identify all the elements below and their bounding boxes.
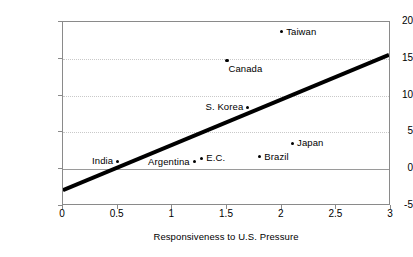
x-axis-title: Responsiveness to U.S. Pressure xyxy=(62,231,390,242)
data-point-label: Argentina xyxy=(148,157,190,167)
scatter-chart: Exports to U.S./GNP 20151050-5 00.511.52… xyxy=(0,0,413,257)
x-tick-mark xyxy=(390,205,391,209)
x-tick-label: 1.5 xyxy=(206,209,246,219)
x-tick-label: 0 xyxy=(42,209,82,219)
x-tick-mark xyxy=(62,205,63,209)
data-point-label: Canada xyxy=(229,64,263,74)
data-point-label: Japan xyxy=(297,138,323,148)
x-tick-mark xyxy=(335,205,336,209)
x-tick-label: 3 xyxy=(370,209,410,219)
x-tick-mark xyxy=(171,205,172,209)
x-tick-label: 0.5 xyxy=(97,209,137,219)
x-tick-mark xyxy=(281,205,282,209)
data-point-label: S. Korea xyxy=(206,102,244,112)
x-tick-label: 2.5 xyxy=(315,209,355,219)
plot-area: TaiwanCanadaS. KoreaJapanBrazilE.C.Argen… xyxy=(62,21,390,205)
trend-line xyxy=(63,22,389,204)
data-point-label: India xyxy=(92,156,113,166)
data-point-label: E.C. xyxy=(206,153,225,163)
data-point xyxy=(116,160,119,163)
data-point xyxy=(225,59,228,62)
x-tick-mark xyxy=(226,205,227,209)
x-tick-mark xyxy=(117,205,118,209)
data-point-label: Brazil xyxy=(264,152,288,162)
x-tick-label: 1 xyxy=(151,209,191,219)
data-point-label: Taiwan xyxy=(286,27,316,37)
x-tick-label: 2 xyxy=(261,209,301,219)
plot-inner: TaiwanCanadaS. KoreaJapanBrazilE.C.Argen… xyxy=(63,22,389,204)
